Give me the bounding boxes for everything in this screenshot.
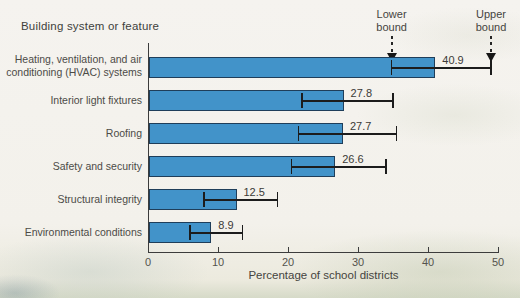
category-label: Interior light fixtures (4, 94, 142, 107)
error-bar-line (302, 100, 393, 102)
error-bar-lower-cap (189, 225, 191, 240)
error-bar-lower-cap (301, 93, 303, 108)
category-label-line: Roofing (4, 127, 142, 140)
bar-value-label: 40.9 (442, 54, 463, 66)
error-bar-upper-cap (242, 225, 244, 240)
error-bar-line (392, 67, 491, 69)
category-label-line: conditioning (HVAC) systems (4, 66, 142, 79)
error-bar-upper-cap (385, 159, 387, 174)
category-label: Environmental conditions (4, 226, 142, 239)
x-tick (218, 247, 219, 252)
x-axis-line (148, 252, 499, 253)
chart-title: Building system or feature (21, 20, 159, 32)
error-bar-line (292, 166, 387, 168)
bar-value-label: 27.7 (350, 120, 371, 132)
x-tick-label: 10 (206, 256, 230, 268)
category-label: Roofing (4, 127, 142, 140)
bar-value-label: 27.8 (351, 87, 372, 99)
error-bar-line (190, 232, 243, 234)
x-tick (148, 247, 149, 252)
lower-bound-label: Lower bound (363, 8, 421, 34)
x-axis-title: Percentage of school districts (148, 269, 499, 281)
x-tick (428, 247, 429, 252)
error-bar-lower-cap (203, 192, 205, 207)
category-label: Safety and security (4, 160, 142, 173)
category-label-line: Interior light fixtures (4, 94, 142, 107)
bar-chart-figure: Building system or feature Lower bound U… (0, 0, 520, 298)
upper-bound-label: Upper bound (462, 8, 520, 34)
error-bar-lower-cap (391, 60, 393, 75)
error-bar-lower-cap (298, 126, 300, 141)
error-bar-line (299, 133, 397, 135)
error-bar-lower-cap (291, 159, 293, 174)
x-tick-label: 20 (276, 256, 300, 268)
x-tick (498, 247, 499, 252)
error-bar-upper-cap (277, 192, 279, 207)
x-tick-label: 30 (346, 256, 370, 268)
category-label: Heating, ventilation, and airconditionin… (4, 53, 142, 79)
bar-value-label: 8.9 (218, 219, 233, 231)
bar-value-label: 12.5 (244, 186, 265, 198)
error-bar-upper-cap (490, 60, 492, 75)
error-bar-upper-cap (396, 126, 398, 141)
x-tick-label: 50 (486, 256, 510, 268)
bar-value-label: 26.6 (342, 153, 363, 165)
x-tick-label: 0 (136, 256, 160, 268)
error-bar-line (204, 199, 278, 201)
x-tick-label: 40 (416, 256, 440, 268)
category-label-line: Heating, ventilation, and air (4, 53, 142, 66)
category-label-line: Environmental conditions (4, 226, 142, 239)
error-bar-upper-cap (392, 93, 394, 108)
x-tick (288, 247, 289, 252)
category-label-line: Safety and security (4, 160, 142, 173)
category-label-line: Structural integrity (4, 193, 142, 206)
category-label: Structural integrity (4, 193, 142, 206)
x-tick (358, 247, 359, 252)
plot-area: 40.927.827.726.612.58.9 01020304050 Perc… (148, 43, 514, 293)
